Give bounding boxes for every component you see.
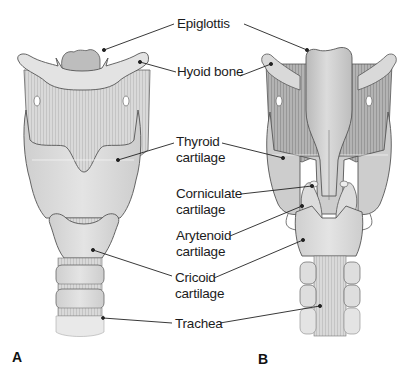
trachea-b bbox=[300, 256, 360, 336]
label-cricoid-line2: cartilage bbox=[175, 286, 224, 302]
label-trachea: Trachea bbox=[175, 316, 223, 332]
panel-letter-a: A bbox=[12, 349, 22, 365]
label-cricoid-line1: Cricoid bbox=[175, 270, 216, 286]
label-epiglottis: Epiglottis bbox=[177, 16, 230, 32]
label-arytenoid-line2: cartilage bbox=[176, 244, 225, 260]
label-corniculate-line2: cartilage bbox=[176, 202, 225, 218]
label-corniculate-line1: Corniculate bbox=[176, 186, 242, 202]
trachea-a bbox=[56, 258, 104, 337]
label-thyroid-line1: Thyroid bbox=[176, 134, 220, 150]
panel-letter-b: B bbox=[258, 351, 268, 367]
label-thyroid-line2: cartilage bbox=[176, 150, 225, 166]
label-hyoid-bone: Hyoid bone bbox=[177, 64, 243, 80]
panel-a-larynx bbox=[18, 50, 150, 337]
panel-b-larynx bbox=[262, 47, 397, 336]
label-arytenoid-line1: Arytenoid bbox=[176, 228, 231, 244]
epiglottis-a bbox=[62, 50, 100, 72]
corniculate-cartilage-right-b bbox=[340, 181, 348, 187]
